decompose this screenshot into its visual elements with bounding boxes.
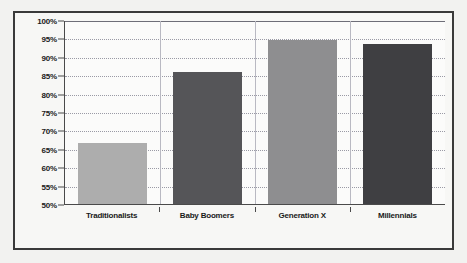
y-axis-tick-label: 60% [42,164,57,173]
x-axis-tick-mark [255,207,256,212]
y-axis-tick-label: 100% [37,17,57,26]
bar [78,143,146,204]
y-axis-tick-label: 65% [42,145,57,154]
y-axis-tick-label: 90% [42,53,57,62]
bar [268,40,336,204]
y-axis-tick-label: 75% [42,109,57,118]
bars-container [65,21,445,204]
plot-wrapper: 100%95%90%85%80%75%70%65%60%55%50% Tradi… [15,13,452,248]
y-axis-tick-label: 85% [42,72,57,81]
bar [363,44,431,204]
x-axis-tick-label: Millennials [378,211,417,220]
x-axis-tick-label: Generation X [278,211,325,220]
y-axis-tick-label: 80% [42,90,57,99]
bar-chart-figure: 100%95%90%85%80%75%70%65%60%55%50% Tradi… [0,0,467,263]
x-axis-tick-labels: TraditionalistsBaby BoomersGeneration XM… [64,207,445,227]
y-axis-tick-label: 50% [42,201,57,210]
x-axis-tick-mark [159,207,160,212]
x-axis-tick-label: Baby Boomers [180,211,234,220]
plot-area [64,21,445,205]
y-axis-tick-label: 55% [42,182,57,191]
x-axis-tick-label: Traditionalists [86,211,137,220]
y-axis-tick-label: 70% [42,127,57,136]
y-axis-tick-label: 95% [42,35,57,44]
y-axis-tick-labels: 100%95%90%85%80%75%70%65%60%55%50% [19,21,57,205]
x-axis-tick-mark [350,207,351,212]
chart-frame: 100%95%90%85%80%75%70%65%60%55%50% Tradi… [13,11,454,250]
bar [173,72,241,204]
